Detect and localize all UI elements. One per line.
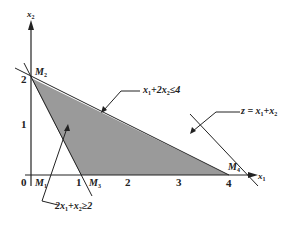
linear-programming-figure: x2 x1 0 1 2 3 4 1 2 M1 M2 M3 M4 x1+2x2≤4… [0, 0, 287, 227]
x-axis-arrow-icon [248, 172, 258, 178]
point-label-m3: M3 [89, 178, 101, 189]
c2-part1: 2x [55, 200, 65, 211]
point-label-m4: M4 [228, 162, 240, 173]
x-axis-label: x1 [258, 172, 266, 182]
point-m2-name: M [35, 66, 44, 77]
point-m3-sub: 3 [98, 183, 101, 189]
y-axis-label: x2 [27, 10, 35, 20]
x-tick-4: 4 [226, 178, 232, 189]
annotation-leader-objective [193, 112, 240, 131]
point-m2-sub: 2 [44, 72, 47, 78]
y-tick-1: 1 [21, 119, 27, 130]
x-axis-label-sub: 1 [263, 176, 266, 182]
y-tick-2: 2 [21, 74, 27, 85]
y-axis-label-sub: 2 [32, 14, 35, 20]
y-axis-arrow-icon [28, 20, 34, 30]
c1-part3: ≤4 [170, 84, 181, 95]
point-label-m1: M1 [35, 178, 47, 189]
x-tick-1: 1 [76, 177, 82, 188]
point-m4-sub: 4 [237, 167, 240, 173]
obj-sub2: 2 [274, 111, 277, 117]
constraint-1-annotation: x1+2x2≤4 [143, 85, 180, 96]
objective-annotation: z = x1+x2 [241, 106, 277, 117]
x-tick-2: 2 [125, 177, 131, 188]
obj-part1: z = x [241, 105, 261, 116]
point-m3-name: M [89, 177, 98, 188]
point-label-m2: M2 [35, 67, 47, 78]
x-tick-3: 3 [176, 177, 182, 188]
point-m4-name: M [228, 161, 237, 172]
annotation-leader-1 [104, 91, 140, 110]
obj-part2: +x [264, 105, 275, 116]
annotation-leader-2 [42, 128, 67, 205]
c2-part2: +x [68, 200, 79, 211]
arrow-head-icon [190, 127, 196, 134]
c1-part2: +2x [151, 84, 167, 95]
constraint-2-annotation: 2x1+x2≥2 [55, 201, 92, 212]
origin-label: 0 [21, 177, 27, 188]
point-m1-name: M [35, 177, 44, 188]
c2-part3: ≥2 [82, 200, 93, 211]
point-m1-sub: 1 [44, 183, 47, 189]
